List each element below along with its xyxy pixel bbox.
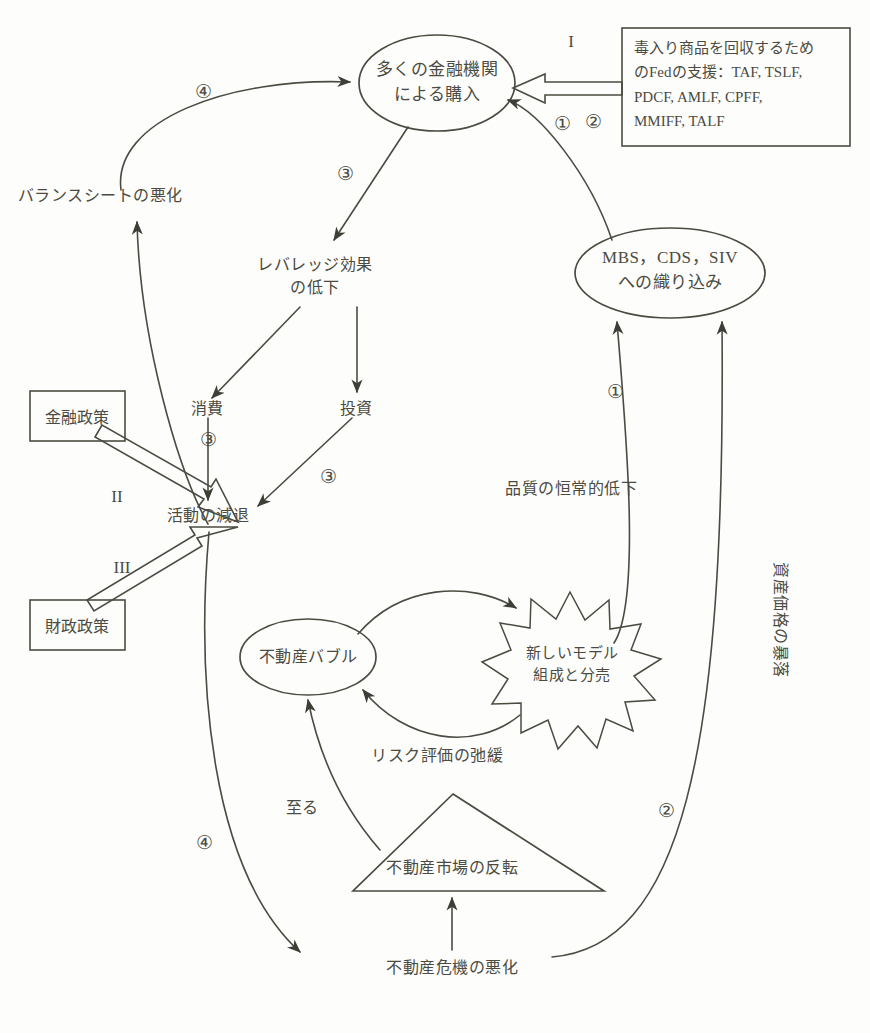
marker-circled-2-bottom: ② [658, 797, 676, 825]
block-arrow-roman-3 [87, 527, 238, 611]
arrow-balance-to-purchase [121, 82, 350, 190]
label-risk-relaxation: リスク評価の弛緩 [371, 744, 503, 767]
label-balance-sheet: バランスシートの悪化 [18, 184, 183, 207]
marker-roman-3: III [114, 558, 131, 578]
label-lead-to: 至る [286, 796, 319, 819]
marker-circled-3-consumption: ③ [200, 426, 218, 454]
marker-circled-3-leverage: ③ [337, 160, 355, 188]
arrow-activity-to-housing-crisis [205, 532, 300, 952]
label-asset-price-crash: 資産価格の暴落 [768, 562, 791, 678]
label-market-reversal: 不動産市場の反転 [386, 856, 518, 879]
marker-circled-1-right: ① [607, 378, 625, 406]
label-fed-support-box: 毒入り商品を回収するため のFedの支援：TAF, TSLF, PDCF, AM… [634, 36, 844, 133]
marker-roman-2: II [111, 487, 122, 507]
marker-circled-2-top: ② [585, 108, 603, 136]
label-quality-decline: 品質の恒常的低下 [505, 477, 637, 500]
label-new-model-burst: 新しいモデル 組成と分売 [526, 643, 619, 687]
label-housing-crisis: 不動産危機の悪化 [386, 956, 518, 979]
marker-roman-1: I [568, 32, 574, 52]
label-leverage-drop: レバレッジ効果 の低下 [257, 253, 373, 299]
label-activity-decline: 活動の減退 [167, 504, 250, 527]
label-consumption: 消費 [191, 397, 224, 420]
arrow-leverage-to-consumption [212, 307, 300, 398]
label-purchase-ellipse: 多くの金融機関 による購入 [376, 58, 499, 107]
arrow-bubble-to-newmodel [358, 591, 516, 634]
label-housing-bubble: 不動産バブル [259, 645, 358, 668]
marker-circled-4-bottom: ④ [196, 829, 214, 857]
arrow-investment-to-activity [258, 418, 352, 506]
marker-circled-1-top: ① [554, 110, 572, 138]
marker-circled-3-investment: ③ [320, 463, 338, 491]
label-monetary-policy: 金融政策 [45, 404, 109, 428]
marker-circled-4-top: ④ [195, 78, 213, 106]
label-mbs-ellipse: MBS，CDS，SIV への織り込み [602, 246, 738, 295]
arrow-reversal-to-bubble [308, 700, 380, 850]
arrow-crisis-to-mbs [552, 322, 722, 957]
block-arrow-roman-1 [513, 74, 622, 103]
label-fiscal-policy: 財政政策 [45, 613, 109, 637]
label-investment: 投資 [340, 397, 373, 420]
